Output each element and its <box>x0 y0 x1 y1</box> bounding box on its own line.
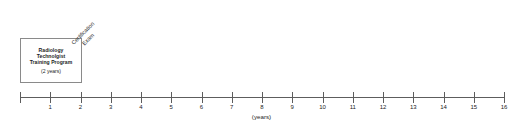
axis-tick-label-16: 16 <box>492 104 516 110</box>
axis-tick-15 <box>474 92 475 103</box>
axis-tick-5 <box>171 92 172 103</box>
axis-tick-10 <box>323 92 324 103</box>
axis-tick-14 <box>444 92 445 103</box>
axis-tick-1 <box>50 92 51 103</box>
axis-tick-9 <box>292 92 293 103</box>
axis-tick-13 <box>413 92 414 103</box>
axis-tick-label-11: 11 <box>341 104 365 110</box>
axis-tick-12 <box>383 92 384 103</box>
axis-tick-11 <box>353 92 354 103</box>
axis-tick-0 <box>20 92 21 103</box>
phase-box-duration: (2 years) <box>41 68 61 74</box>
axis-tick-label-15: 15 <box>462 104 486 110</box>
axis-tick-3 <box>111 92 112 103</box>
axis-caption-years: (years) <box>0 113 525 120</box>
axis-tick-label-9: 9 <box>280 104 304 110</box>
axis-tick-label-13: 13 <box>401 104 425 110</box>
axis-tick-6 <box>202 92 203 103</box>
axis-tick-label-14: 14 <box>432 104 456 110</box>
axis-tick-16 <box>504 92 505 103</box>
axis-tick-label-8: 8 <box>250 104 274 110</box>
axis-tick-label-5: 5 <box>159 104 183 110</box>
axis-tick-label-1: 1 <box>38 104 62 110</box>
axis-tick-4 <box>141 92 142 103</box>
axis-tick-label-4: 4 <box>129 104 153 110</box>
phase-box-line-3: Training Program <box>30 59 73 65</box>
axis-tick-label-6: 6 <box>190 104 214 110</box>
axis-tick-label-10: 10 <box>311 104 335 110</box>
axis-caption-text: (years) <box>252 113 271 120</box>
axis-tick-7 <box>232 92 233 103</box>
axis-tick-2 <box>81 92 82 103</box>
axis-tick-label-2: 2 <box>69 104 93 110</box>
timeline-diagram: Radiology Technolgist Training Program (… <box>0 0 525 129</box>
axis-tick-label-12: 12 <box>371 104 395 110</box>
axis-tick-8 <box>262 92 263 103</box>
axis-tick-label-7: 7 <box>220 104 244 110</box>
axis-tick-label-3: 3 <box>99 104 123 110</box>
